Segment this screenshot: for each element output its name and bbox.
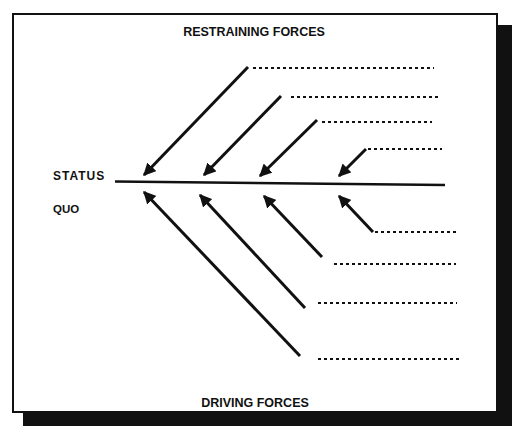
quo-label: QUO	[53, 203, 79, 215]
driving-forces-group	[144, 192, 462, 359]
restraining-force-arrow-4	[339, 149, 366, 176]
restraining-forces-title: RESTRAINING FORCES	[183, 25, 325, 39]
restraining-force-arrow-2	[204, 96, 281, 175]
force-field-diagram: RESTRAINING FORCES DRIVING FORCES STATUS…	[0, 0, 515, 431]
restraining-forces-group	[144, 67, 442, 176]
status-quo-line	[115, 182, 445, 186]
restraining-force-arrow-1	[144, 67, 248, 175]
driving-force-arrow-4	[339, 196, 373, 232]
restraining-force-arrow-3	[260, 120, 317, 176]
driving-force-arrow-2	[200, 195, 305, 308]
driving-forces-title: DRIVING FORCES	[201, 396, 309, 410]
status-label: STATUS	[53, 169, 105, 183]
driving-force-arrow-3	[264, 196, 322, 257]
